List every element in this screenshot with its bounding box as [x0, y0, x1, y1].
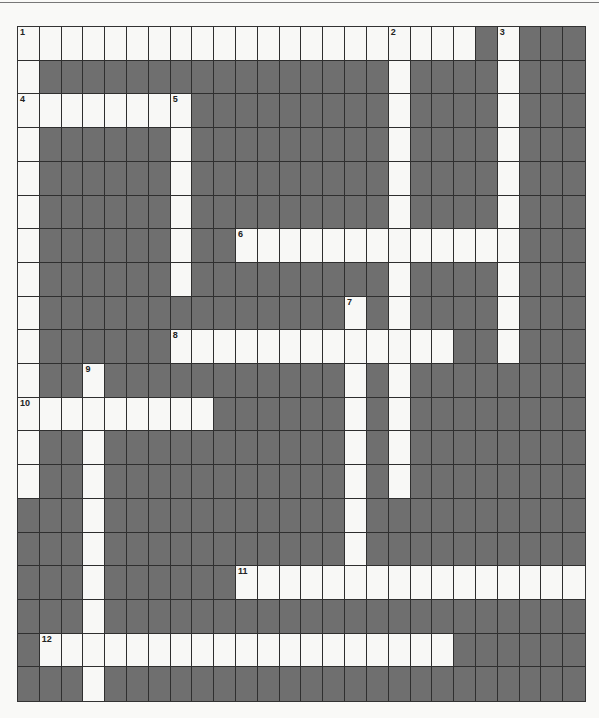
crossword-cell[interactable]: 10: [18, 398, 40, 432]
crossword-cell[interactable]: [454, 229, 476, 263]
crossword-cell[interactable]: [498, 128, 520, 162]
crossword-cell[interactable]: [367, 634, 389, 668]
crossword-cell[interactable]: [18, 297, 40, 331]
crossword-cell[interactable]: 5: [171, 94, 193, 128]
crossword-cell[interactable]: [236, 330, 258, 364]
crossword-cell[interactable]: 9: [83, 364, 105, 398]
crossword-cell[interactable]: [258, 634, 280, 668]
crossword-cell[interactable]: [40, 94, 62, 128]
crossword-cell[interactable]: [454, 566, 476, 600]
crossword-cell[interactable]: [83, 465, 105, 499]
crossword-cell[interactable]: [280, 330, 302, 364]
crossword-cell[interactable]: [258, 27, 280, 61]
crossword-cell[interactable]: [18, 196, 40, 230]
crossword-cell[interactable]: [345, 229, 367, 263]
crossword-cell[interactable]: [476, 566, 498, 600]
crossword-cell[interactable]: [83, 600, 105, 634]
crossword-cell[interactable]: [389, 128, 411, 162]
crossword-cell[interactable]: [149, 27, 171, 61]
crossword-cell[interactable]: [367, 229, 389, 263]
crossword-cell[interactable]: [411, 27, 433, 61]
crossword-cell[interactable]: [345, 634, 367, 668]
crossword-cell[interactable]: [258, 566, 280, 600]
crossword-cell[interactable]: [105, 94, 127, 128]
crossword-cell[interactable]: [62, 398, 84, 432]
crossword-cell[interactable]: [323, 634, 345, 668]
crossword-cell[interactable]: [389, 398, 411, 432]
crossword-cell[interactable]: [149, 398, 171, 432]
crossword-cell[interactable]: [83, 667, 105, 701]
crossword-cell[interactable]: [192, 398, 214, 432]
crossword-cell[interactable]: [411, 566, 433, 600]
crossword-cell[interactable]: [83, 499, 105, 533]
crossword-cell[interactable]: 2: [389, 27, 411, 61]
crossword-cell[interactable]: [389, 566, 411, 600]
crossword-cell[interactable]: [498, 229, 520, 263]
crossword-cell[interactable]: [192, 330, 214, 364]
crossword-cell[interactable]: [345, 566, 367, 600]
crossword-cell[interactable]: [62, 27, 84, 61]
crossword-cell[interactable]: [127, 27, 149, 61]
crossword-cell[interactable]: [389, 263, 411, 297]
crossword-cell[interactable]: [389, 330, 411, 364]
crossword-cell[interactable]: [498, 297, 520, 331]
crossword-cell[interactable]: [18, 330, 40, 364]
crossword-cell[interactable]: [62, 94, 84, 128]
crossword-cell[interactable]: [171, 162, 193, 196]
crossword-cell[interactable]: 11: [236, 566, 258, 600]
crossword-cell[interactable]: [389, 61, 411, 95]
crossword-cell[interactable]: [171, 634, 193, 668]
crossword-cell[interactable]: [323, 566, 345, 600]
crossword-cell[interactable]: [105, 634, 127, 668]
crossword-cell[interactable]: [432, 634, 454, 668]
crossword-cell[interactable]: [389, 431, 411, 465]
crossword-cell[interactable]: [498, 196, 520, 230]
crossword-cell[interactable]: [301, 566, 323, 600]
crossword-cell[interactable]: [171, 196, 193, 230]
crossword-cell[interactable]: [367, 566, 389, 600]
crossword-cell[interactable]: [389, 297, 411, 331]
crossword-cell[interactable]: [105, 27, 127, 61]
crossword-cell[interactable]: [83, 533, 105, 567]
crossword-cell[interactable]: [18, 229, 40, 263]
crossword-cell[interactable]: [432, 229, 454, 263]
crossword-cell[interactable]: [83, 634, 105, 668]
crossword-cell[interactable]: [18, 364, 40, 398]
crossword-cell[interactable]: [18, 128, 40, 162]
crossword-cell[interactable]: [171, 263, 193, 297]
crossword-cell[interactable]: [171, 27, 193, 61]
crossword-cell[interactable]: [323, 229, 345, 263]
crossword-cell[interactable]: [83, 27, 105, 61]
crossword-cell[interactable]: [149, 634, 171, 668]
crossword-cell[interactable]: [389, 465, 411, 499]
crossword-cell[interactable]: [171, 398, 193, 432]
crossword-cell[interactable]: [192, 27, 214, 61]
crossword-cell[interactable]: [18, 465, 40, 499]
crossword-cell[interactable]: [149, 94, 171, 128]
crossword-cell[interactable]: 7: [345, 297, 367, 331]
crossword-cell[interactable]: [520, 566, 542, 600]
crossword-cell[interactable]: [214, 330, 236, 364]
crossword-cell[interactable]: [345, 465, 367, 499]
crossword-cell[interactable]: 1: [18, 27, 40, 61]
crossword-cell[interactable]: [345, 398, 367, 432]
crossword-cell[interactable]: [301, 330, 323, 364]
crossword-cell[interactable]: [476, 229, 498, 263]
crossword-cell[interactable]: [18, 431, 40, 465]
crossword-cell[interactable]: [498, 94, 520, 128]
crossword-cell[interactable]: [323, 27, 345, 61]
crossword-cell[interactable]: 12: [40, 634, 62, 668]
crossword-cell[interactable]: [323, 330, 345, 364]
crossword-cell[interactable]: [214, 634, 236, 668]
crossword-cell[interactable]: [498, 566, 520, 600]
crossword-cell[interactable]: [83, 398, 105, 432]
crossword-cell[interactable]: [18, 263, 40, 297]
crossword-cell[interactable]: [498, 330, 520, 364]
crossword-cell[interactable]: [432, 330, 454, 364]
crossword-cell[interactable]: [432, 27, 454, 61]
crossword-cell[interactable]: [171, 128, 193, 162]
crossword-cell[interactable]: [236, 634, 258, 668]
crossword-cell[interactable]: [498, 162, 520, 196]
crossword-cell[interactable]: [498, 263, 520, 297]
crossword-cell[interactable]: [280, 566, 302, 600]
